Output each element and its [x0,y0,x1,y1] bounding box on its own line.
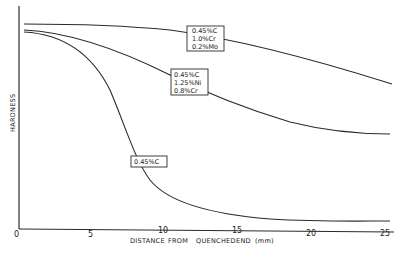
x-axis [19,229,394,232]
label-cr-mo-line3: 0.2%Mo [192,43,218,51]
x-tick-20: 20 [306,229,316,238]
label-cr-mo-line2: 1.0%Cr [192,35,216,43]
x-tick-0: 0 [14,230,19,239]
label-cr-mo-line1: 0.45%C [192,27,218,35]
label-box-plain-carbon: 0.45%C [131,156,167,167]
label-ni-cr-line2: 1.25%Ni [174,79,202,87]
x-tick-10: 10 [158,226,168,235]
x-axis-label-quenched: QUENCHED [196,237,236,245]
x-tick-15: 15 [232,226,242,235]
x-axis-label-end: END [236,237,251,245]
label-ni-cr-line1: 0.45%C [174,71,200,79]
label-plain-carbon: 0.45%C [134,158,160,166]
curve-plain-carbon [24,32,390,221]
label-box-ni-cr: 0.45%C 1.25%Ni 0.8%Cr [171,69,208,95]
label-box-cr-mo: 0.45%C 1.0%Cr 0.2%Mo [187,26,224,51]
x-axis-label-unit: (mm) [255,237,274,245]
hardenability-chart: 0 5 10 15 20 25 DISTANCE FROM QUENCHED E… [0,0,402,257]
y-axis-label: HARDNESS [9,94,17,132]
x-tick-5: 5 [88,230,93,239]
label-ni-cr-line3: 0.8%Cr [174,87,198,95]
x-tick-25: 25 [380,229,390,238]
x-axis-label-distance: DISTANCE [130,237,165,245]
x-axis-label-from: FROM [168,237,188,245]
